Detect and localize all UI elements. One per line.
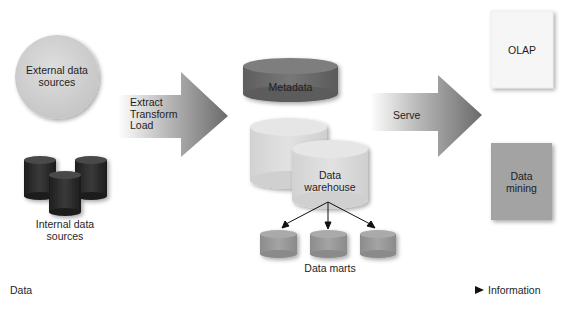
data-marts-label: Data marts — [288, 262, 372, 274]
data-marts-cylinders — [260, 230, 396, 258]
metadata-label: Metadata — [243, 81, 338, 93]
axis-end-label: Information — [488, 284, 568, 296]
data-mining-label: Data mining — [491, 170, 552, 194]
internal-sources-label: Internal data sources — [22, 218, 108, 242]
olap-label: OLAP — [491, 44, 553, 56]
external-sources-label: External data sources — [20, 64, 94, 88]
metadata-cylinder — [243, 58, 338, 102]
data-warehouse-label: Data warehouse — [292, 169, 368, 193]
etl-label: Extract Transform Load — [130, 97, 200, 132]
warehouse-to-marts-arrows — [282, 202, 375, 229]
axis-start-label: Data — [10, 284, 40, 296]
internal-sources-cylinders-icon — [24, 156, 107, 216]
serve-label: Serve — [393, 109, 443, 121]
data-information-axis — [38, 286, 484, 294]
